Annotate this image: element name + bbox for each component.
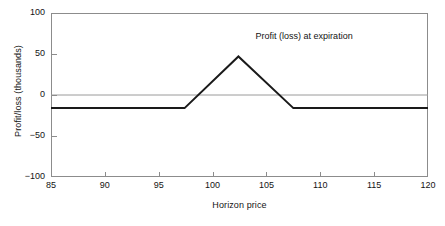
x-tick-label: 85 bbox=[31, 181, 71, 190]
x-tick-mark bbox=[159, 172, 160, 177]
chart-figure: Profit/loss (thousands) −100−50050100 85… bbox=[0, 0, 445, 226]
x-tick-label: 100 bbox=[193, 181, 233, 190]
y-tick-label: −50 bbox=[1, 131, 45, 140]
x-tick-label: 115 bbox=[354, 181, 394, 190]
y-tick-label: 100 bbox=[1, 8, 45, 17]
x-tick-mark bbox=[213, 172, 214, 177]
data-layer bbox=[51, 13, 428, 177]
chart-annotation: Profit (loss) at expiration bbox=[256, 31, 353, 41]
y-tick-mark bbox=[52, 95, 57, 96]
y-tick-label: 0 bbox=[1, 90, 45, 99]
y-tick-label: 50 bbox=[1, 49, 45, 58]
x-tick-mark bbox=[105, 172, 106, 177]
x-tick-label: 95 bbox=[139, 181, 179, 190]
x-tick-label: 120 bbox=[408, 181, 445, 190]
x-tick-label: 105 bbox=[246, 181, 286, 190]
y-tick-mark bbox=[52, 136, 57, 137]
y-tick-mark bbox=[52, 54, 57, 55]
x-tick-label: 110 bbox=[300, 181, 340, 190]
y-axis-tick-labels: −100−50050100 bbox=[0, 0, 45, 226]
x-tick-mark bbox=[320, 172, 321, 177]
payoff-line bbox=[51, 56, 428, 108]
y-tick-label: −100 bbox=[1, 172, 45, 181]
x-tick-mark bbox=[266, 172, 267, 177]
x-tick-mark bbox=[374, 172, 375, 177]
x-axis-title: Horizon price bbox=[51, 200, 428, 210]
x-tick-label: 90 bbox=[85, 181, 125, 190]
